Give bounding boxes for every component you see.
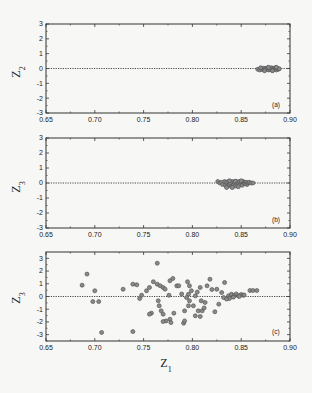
y-tick-label: 3 [39,255,43,262]
x-tick-label: 0.65 [39,116,53,123]
data-point [198,285,202,289]
data-point [195,290,199,294]
figure: 0.650.700.750.800.850.903210-1-2-3 Z2 (a… [0,0,312,393]
x-tick-label: 0.65 [39,344,53,351]
x-tick-label: 0.85 [234,344,248,351]
y-tick-label: -3 [37,331,43,338]
x-tick-label: 0.80 [186,344,200,351]
y-tick-label: -3 [37,224,43,231]
data-point [177,284,181,288]
data-point [187,284,191,288]
data-point [169,321,173,325]
data-point [97,300,101,304]
data-point [145,289,149,293]
data-point [147,312,151,316]
x-tick-label: 0.90 [283,344,297,351]
data-point [140,293,144,297]
data-point [85,272,89,276]
y-tick-label: -2 [37,318,43,325]
y-tick-label: 0 [39,179,43,186]
panel-b-tag: (b) [272,216,280,224]
data-point [196,309,200,313]
data-point [151,280,155,284]
x-tick-label: 0.85 [234,231,248,238]
data-point [131,282,135,286]
data-point [233,179,237,183]
data-point [157,304,161,308]
y-tick-label: 3 [39,134,43,141]
data-point [230,186,234,190]
data-point [198,314,202,318]
figure-background [0,0,312,393]
data-point [259,66,263,70]
data-point [274,65,278,69]
data-point [231,295,235,299]
y-tick-label: -3 [37,109,43,116]
data-point [156,299,160,303]
data-point [199,299,203,303]
y-tick-label: -2 [37,95,43,102]
y-tick-label: -1 [37,80,43,87]
y-tick-label: 1 [39,164,43,171]
data-point [155,261,159,265]
data-point [208,277,212,281]
data-point [203,300,207,304]
data-point [186,304,190,308]
data-point [220,291,224,295]
data-point [263,69,267,73]
y-tick-label: 2 [39,149,43,156]
data-point [167,293,171,297]
x-tick-label: 0.75 [137,231,151,238]
data-point [210,288,214,292]
data-point [185,296,189,300]
data-point [93,289,97,293]
data-point [223,281,227,285]
y-tick-label: 3 [39,20,43,27]
y-tick-label: -2 [37,209,43,216]
x-tick-label: 0.90 [283,116,297,123]
data-point [183,319,187,323]
data-point [255,289,259,293]
data-point [227,179,231,183]
x-tick-label: 0.70 [88,344,102,351]
data-point [180,292,184,296]
x-tick-label: 0.75 [137,116,151,123]
y-tick-label: 0 [39,293,43,300]
x-tick-label: 0.80 [186,116,200,123]
x-tick-label: 0.70 [88,231,102,238]
panel-a-tag: (a) [272,101,280,109]
data-point [187,299,191,303]
y-tick-label: 2 [39,35,43,42]
data-point [191,304,195,308]
x-tick-label: 0.90 [283,231,297,238]
data-point [135,283,139,287]
panel-a-points [256,65,281,72]
data-point [193,314,197,318]
y-tick-label: 2 [39,267,43,274]
y-tick-label: 0 [39,65,43,72]
data-point [213,310,217,314]
data-point [251,181,255,185]
data-point [80,283,84,287]
data-point [163,287,167,291]
x-tick-label: 0.80 [186,231,200,238]
data-point [161,320,165,324]
data-point [147,285,151,289]
x-tick-label: 0.75 [137,344,151,351]
data-point [236,185,240,189]
data-point [100,330,104,334]
x-tick-label: 0.70 [88,116,102,123]
y-tick-label: -1 [37,306,43,313]
y-tick-label: 1 [39,50,43,57]
data-point [186,280,190,284]
y-tick-label: 1 [39,280,43,287]
data-point [131,330,135,334]
data-point [193,294,197,298]
data-point [121,287,125,291]
data-point [251,289,255,293]
data-point [225,186,229,190]
data-point [202,306,206,310]
data-point [171,276,175,280]
data-point [91,300,95,304]
data-point [239,179,243,183]
